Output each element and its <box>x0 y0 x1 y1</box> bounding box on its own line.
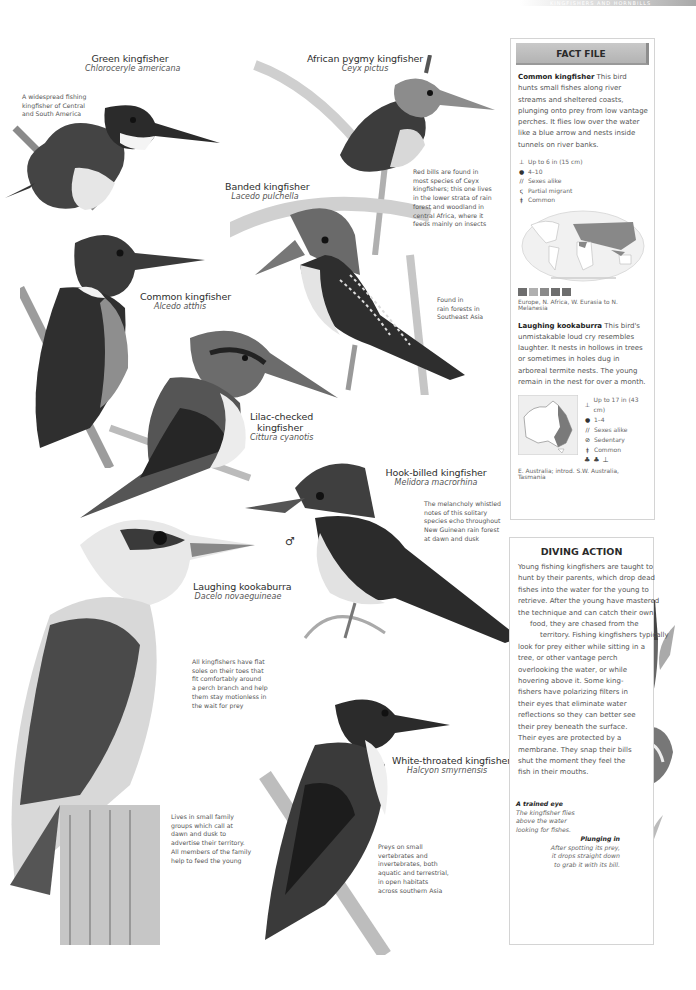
white-throated-kingfisher-note: Preys on smallvertebrates andinvertebrat… <box>378 843 449 895</box>
hook-billed-kingfisher-note: The melancholy whistlednotes of this sol… <box>424 500 501 544</box>
hook-billed-kingfisher-illustration <box>245 458 525 678</box>
kookaburra-range: E. Australia; introd. S.W. Australia, Ta… <box>518 468 648 480</box>
egg-icon: ● <box>584 415 591 425</box>
fact-file-panel: FACT FILE Common kingfisher This bird hu… <box>510 38 655 520</box>
river-habitat-icon <box>540 288 549 296</box>
status-icon: ǂ <box>584 445 591 455</box>
diving-action-panel: DIVING ACTION Young fishing kingfishers … <box>509 537 654 945</box>
size-icon: ⊥ <box>584 400 591 410</box>
plunging-in-caption: Plunging in After spotting its prey, it … <box>551 835 620 869</box>
woodland-habitat-icon: ♣ <box>593 456 599 464</box>
size-icon: ⊥ <box>518 157 525 167</box>
stat-sexes: //Sexes alike <box>518 176 648 186</box>
stat-size: ⊥Up to 6 in (15 cm) <box>518 157 648 167</box>
kookaburra-family-note: Lives in small familygroups which call a… <box>171 813 251 865</box>
scrub-habitat-icon <box>529 288 538 296</box>
common-kingfisher-fact: Common kingfisher This bird hunts small … <box>518 72 648 151</box>
white-throated-kingfisher-label: White-throated kingfisher Halcyon smyrne… <box>392 755 502 775</box>
stat-status: ǂCommon <box>518 195 648 205</box>
sedentary-icon: ⊘ <box>584 435 591 445</box>
diving-action-title: DIVING ACTION <box>510 546 653 557</box>
stat-sexes: //Sexes alike <box>584 425 648 435</box>
sexes-icon: // <box>584 425 591 435</box>
running-header: KINGFISHERS AND HORNBILLS <box>520 0 696 6</box>
lilac-cheeked-kingfisher-label: Lilac-checked kingfisher Cittura cyanoti… <box>250 411 310 442</box>
laughing-kookaburra-illustration <box>10 505 260 945</box>
australia-range-map <box>518 395 578 455</box>
white-throated-kingfisher-illustration <box>245 695 455 955</box>
kookaburra-feet-note: All kingfishers have flatsoles on their … <box>192 658 268 710</box>
habitat-icons: ♣ ♣ ⊥ <box>584 456 648 464</box>
green-kingfisher-label: Green kingfisher Chloroceryle americana <box>85 53 175 73</box>
common-kingfisher-range: Europe, N. Africa, W. Eurasia to N. Mela… <box>518 299 648 311</box>
stat-clutch: ●4–10 <box>518 167 648 177</box>
habitat-icons <box>518 288 648 296</box>
stat-size: ⊥Up to 17 in (43 cm) <box>584 395 648 415</box>
hook-billed-kingfisher-label: Hook-billed kingfisher Melidora macrorhi… <box>376 467 496 487</box>
tree-habitat-icon: ♣ <box>584 456 590 464</box>
male-symbol-icon: ♂ <box>285 535 295 548</box>
laughing-kookaburra-label: Laughing kookaburra Dacelo novaeguineae <box>193 581 283 601</box>
wetland-habitat-icon <box>551 288 560 296</box>
common-kingfisher-stats: ⊥Up to 6 in (15 cm) ●4–10 //Sexes alike … <box>518 157 648 205</box>
stat-migration: ⊘Sedentary <box>584 435 648 445</box>
banded-kingfisher-label: Banded kingfisher Lacedo pulchella <box>225 181 305 201</box>
migration-icon: ς <box>518 186 525 196</box>
african-pygmy-kingfisher-label: African pygmy kingfisher Ceyx pictus <box>300 53 430 73</box>
green-kingfisher-note: A widespread fishingkingfisher of Centra… <box>22 93 86 119</box>
fact-file-title: FACT FILE <box>516 43 649 65</box>
trained-eye-caption: A trained eye The kingfisher flies above… <box>516 800 575 834</box>
world-range-map <box>521 210 645 282</box>
banded-kingfisher-note: Found inrain forests inSoutheast Asia <box>437 296 483 322</box>
forest-habitat-icon <box>518 288 527 296</box>
common-kingfisher-label: Common kingfisher Alcedo atthis <box>140 291 220 311</box>
stat-status: ǂCommon <box>584 445 648 455</box>
grassland-habitat-icon: ⊥ <box>603 456 609 464</box>
status-icon: ǂ <box>518 195 525 205</box>
egg-icon: ● <box>518 167 525 177</box>
stat-clutch: ●1–4 <box>584 415 648 425</box>
diving-action-text: Young fishing kingfishers are taught to … <box>518 562 655 779</box>
kookaburra-stats: ⊥Up to 17 in (43 cm) ●1–4 //Sexes alike … <box>584 395 648 464</box>
sexes-icon: // <box>518 176 525 186</box>
african-pygmy-kingfisher-note: Red bills are found inmost species of Ce… <box>413 168 492 229</box>
kookaburra-fact: Laughing kookaburra This bird's unmistak… <box>518 321 648 389</box>
stat-migration: ςPartial migrant <box>518 186 648 196</box>
coast-habitat-icon <box>562 288 571 296</box>
